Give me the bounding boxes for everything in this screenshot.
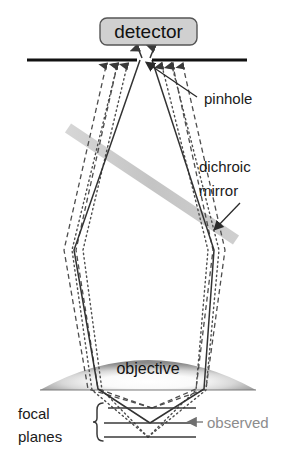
pinhole-label: pinhole <box>204 90 252 107</box>
ray-to-detector <box>138 48 154 58</box>
diagram-canvas: detector pinhole dichroic mirror objecti… <box>0 0 299 471</box>
dichroic-label-line2: mirror <box>199 182 238 199</box>
dichroic-label-line1: dichroic <box>199 158 251 175</box>
focal-planes-label-line1: focal <box>18 405 50 422</box>
focal-planes-label-line2: planes <box>18 428 62 445</box>
focal-plane-lines <box>104 408 196 437</box>
detector-label: detector <box>114 21 183 42</box>
ray-group-dashed-above-focus <box>64 66 225 408</box>
pinhole-leader-line <box>147 63 197 97</box>
dichroic-leader-line <box>215 203 240 229</box>
observed-label: observed <box>207 414 269 431</box>
focal-planes-brace <box>93 403 103 441</box>
confocal-diagram: detector pinhole dichroic mirror objecti… <box>0 0 299 471</box>
objective-label: objective <box>116 360 179 377</box>
